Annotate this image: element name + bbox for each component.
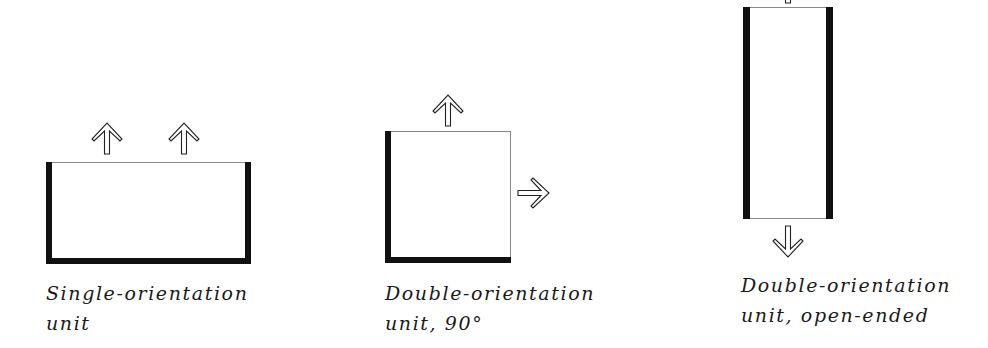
- wall-left: [46, 162, 52, 264]
- caption: Double-orientation unit, 90°: [385, 278, 595, 338]
- unit-box: [46, 162, 251, 264]
- caption-line-2: unit: [46, 308, 248, 338]
- wall-bottom: [385, 257, 511, 263]
- arrow-up-icon-cropped: [772, 0, 804, 4]
- arrow-up-icon: [432, 93, 464, 127]
- caption-line-2: unit, 90°: [385, 308, 595, 338]
- open-edge-bottom: [743, 218, 833, 219]
- arrow-down-icon: [772, 225, 804, 259]
- unit-box: [385, 131, 511, 263]
- caption-line-1: Double-orientation: [385, 278, 595, 308]
- caption-line-2: unit, open-ended: [741, 300, 951, 330]
- wall-bottom: [46, 258, 251, 264]
- wall-left: [743, 7, 750, 219]
- open-edge-top: [46, 162, 251, 163]
- arrow-up-icon: [91, 121, 123, 155]
- open-edge-top: [743, 7, 833, 8]
- unit-box: [743, 7, 833, 219]
- wall-right: [245, 162, 251, 264]
- caption: Double-orientation unit, open-ended: [741, 270, 951, 330]
- caption: Single-orientation unit: [46, 278, 248, 338]
- open-edge-right: [510, 131, 511, 263]
- open-edge-top: [385, 131, 511, 132]
- caption-line-1: Single-orientation: [46, 278, 248, 308]
- caption-line-1: Double-orientation: [741, 270, 951, 300]
- arrow-up-icon: [168, 121, 200, 155]
- wall-left: [385, 131, 391, 263]
- wall-right: [826, 7, 833, 219]
- arrow-right-icon: [517, 177, 551, 209]
